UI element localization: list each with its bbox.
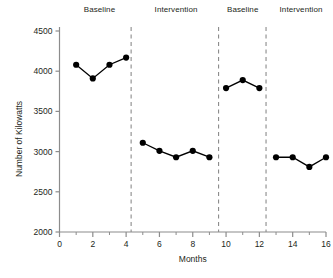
axes-lines [60,27,327,232]
y-tick-label: 3500 [20,106,53,116]
series-data-markers [73,54,329,170]
y-axis-title: Number of Kilowatts [14,100,24,176]
y-tick-label: 4500 [20,26,53,36]
x-tick-label: 8 [190,239,195,249]
x-tick-marks [60,232,327,237]
x-tick-label: 0 [57,239,62,249]
y-tick-label: 4000 [20,66,53,76]
x-tick-label: 16 [321,239,330,249]
y-tick-label: 3000 [20,147,53,157]
x-tick-label: 4 [124,239,129,249]
x-tick-label: 12 [255,239,264,249]
chart-figure: BaselineInterventionBaselineIntervention… [0,0,333,278]
y-tick-label: 2500 [20,187,53,197]
x-tick-label: 10 [221,239,230,249]
y-tick-label: 2000 [20,227,53,237]
x-tick-label: 2 [90,239,95,249]
series-line-segments [76,58,326,167]
x-tick-label: 14 [288,239,297,249]
x-axis-title: Months [179,254,207,264]
x-tick-label: 6 [157,239,162,249]
phase-divider-lines [131,27,266,232]
